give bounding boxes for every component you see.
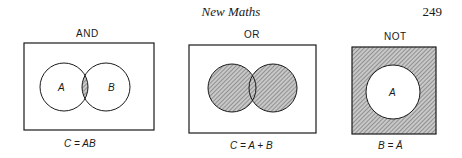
or-caption: C = A + B bbox=[230, 140, 273, 151]
circle-label-a: A bbox=[58, 82, 65, 93]
not-caption: B = Ā bbox=[378, 140, 403, 151]
or-diagram bbox=[189, 45, 316, 133]
and-label: AND bbox=[76, 28, 99, 39]
and-caption: C = AB bbox=[64, 138, 96, 149]
venn-diagrams bbox=[0, 0, 462, 158]
circle-label-a-not: A bbox=[389, 87, 396, 98]
not-label: NOT bbox=[384, 31, 407, 42]
circle-label-b: B bbox=[108, 82, 115, 93]
and-diagram bbox=[24, 43, 154, 130]
or-label: OR bbox=[244, 29, 260, 40]
